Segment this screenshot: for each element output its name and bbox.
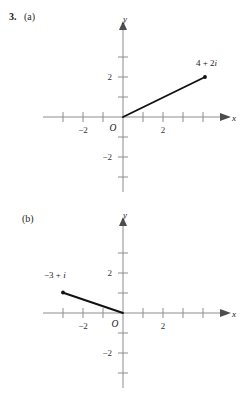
point-4-plus-2i xyxy=(203,75,207,79)
x-axis-label: x xyxy=(231,113,236,123)
y-axis-label: y xyxy=(122,14,127,24)
y-tick-label--2: −2 xyxy=(102,152,112,162)
vector-4-plus-2i xyxy=(123,78,204,118)
y-tick-label-2: 2 xyxy=(108,72,113,82)
point-label-imaginary-unit: i xyxy=(215,58,218,68)
origin-label: O xyxy=(112,319,119,329)
x-tick-label--2: −2 xyxy=(78,125,88,135)
x-axis-arrow-icon xyxy=(220,309,231,317)
point-label-4-plus-2i: 4 + 2i xyxy=(196,58,218,68)
argand-diagram-a: −2 2 2 −2 x y O 4 + 2i xyxy=(0,0,248,196)
y-tick-label-2: 2 xyxy=(108,268,113,278)
vector-minus-3-plus-i xyxy=(64,293,123,313)
origin-label: O xyxy=(110,123,117,133)
x-axis-label: x xyxy=(231,309,236,319)
x-tick-label--2: −2 xyxy=(78,321,88,331)
figure-page: 3. (a) xyxy=(0,0,248,411)
argand-diagram-b: −2 2 2 −2 x y O −3 + i xyxy=(0,205,248,401)
x-tick-label-2: 2 xyxy=(161,125,166,135)
point-label-real-part: 4 + 2 xyxy=(196,58,215,68)
point-label-real-part: −3 + xyxy=(44,270,63,280)
point-label-minus-3-plus-i: −3 + i xyxy=(44,270,66,280)
y-axis-label: y xyxy=(122,210,127,220)
point-label-imaginary-unit: i xyxy=(63,270,66,280)
point-minus-3-plus-i xyxy=(61,291,65,295)
y-tick-label--2: −2 xyxy=(102,348,112,358)
x-tick-label-2: 2 xyxy=(161,321,166,331)
x-axis-arrow-icon xyxy=(220,113,231,121)
